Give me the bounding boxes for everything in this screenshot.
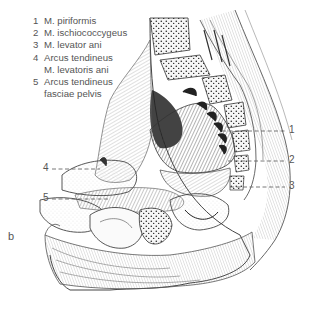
pelvic-floor-illustration bbox=[0, 0, 311, 310]
callout-number-3: 3 bbox=[289, 180, 295, 191]
callout-number-4: 4 bbox=[43, 162, 49, 173]
callout-number-1: 1 bbox=[289, 124, 295, 135]
callout-number-2: 2 bbox=[289, 154, 295, 165]
callout-number-5: 5 bbox=[43, 192, 49, 203]
panel-letter: b bbox=[8, 230, 14, 242]
